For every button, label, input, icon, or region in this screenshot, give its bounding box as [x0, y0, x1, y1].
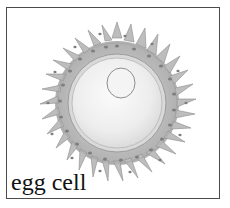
figure-label: egg cell: [11, 168, 86, 196]
nucleus: [107, 68, 135, 98]
